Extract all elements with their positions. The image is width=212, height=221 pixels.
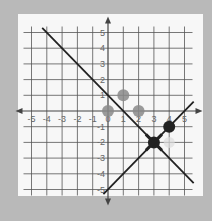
descending-line	[42, 28, 193, 183]
x-tick-label: -2	[73, 114, 81, 124]
y-tick-label: 3	[100, 59, 105, 69]
coordinate-plane: -5-4-3-2-101234554321-1-2-3-4-5	[0, 0, 212, 221]
data-point-gray	[133, 105, 145, 117]
x-tick-label: -4	[43, 114, 51, 124]
y-axis-arrow-down	[105, 199, 111, 206]
x-axis-arrow-left	[16, 108, 23, 114]
data-point-faint	[164, 137, 175, 148]
y-tick-label: -4	[97, 169, 105, 179]
data-point-gray	[102, 105, 114, 117]
x-tick-label: 1	[121, 114, 126, 124]
x-tick-label: -5	[27, 114, 35, 124]
data-point-black	[163, 121, 175, 133]
y-tick-label: 4	[100, 43, 105, 53]
x-tick-label: -1	[89, 114, 97, 124]
x-tick-label: 5	[182, 114, 187, 124]
y-tick-label: 5	[100, 28, 105, 38]
x-axis-arrow-right	[196, 108, 203, 114]
x-tick-label: 3	[151, 114, 156, 124]
data-point-gray	[117, 89, 129, 101]
y-tick-label: -2	[97, 137, 105, 147]
y-tick-label: -1	[97, 122, 105, 132]
y-tick-label: -3	[97, 153, 105, 163]
y-tick-label: 2	[100, 75, 105, 85]
y-axis-arrow-up	[105, 17, 111, 24]
x-tick-label: -3	[58, 114, 66, 124]
